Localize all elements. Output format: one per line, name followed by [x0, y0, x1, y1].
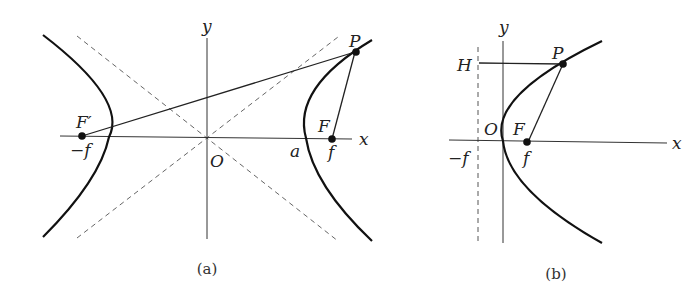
- foot-H-label: H: [456, 55, 473, 75]
- focus-right-coord-label: f: [326, 142, 337, 162]
- diagram-b-parabola: y x O F f −f H P (b): [448, 17, 682, 283]
- segment-F-P-b: [528, 64, 563, 142]
- figure-canvas: y x O F′ −f F f a P (a) y x O F f −f H P: [0, 0, 690, 306]
- vertex-label-a: a: [290, 141, 300, 161]
- origin-label-b: O: [484, 119, 498, 139]
- focus-coord-label-b: f: [521, 148, 532, 168]
- y-axis-label-a: y: [201, 16, 212, 36]
- segment-H-P: [479, 63, 563, 64]
- x-axis-label-b: x: [672, 133, 682, 153]
- x-axis-b: [449, 140, 667, 143]
- x-axis-label-a: x: [359, 129, 369, 149]
- directrix-coord-label: −f: [448, 148, 471, 168]
- focus-right-label: F: [317, 116, 331, 136]
- segment-Fprime-P: [82, 52, 355, 136]
- y-axis-label-b: y: [498, 17, 509, 37]
- diagram-a-hyperbola: y x O F′ −f F f a P (a): [43, 16, 372, 278]
- focus-left-point: [78, 132, 86, 140]
- focus-point-b: [523, 138, 531, 146]
- focus-label-b: F: [512, 119, 526, 139]
- point-P-label-b: P: [551, 43, 564, 63]
- focus-left-coord-label: −f: [70, 140, 93, 160]
- focus-left-label: F′: [75, 112, 92, 132]
- caption-b: (b): [545, 265, 566, 283]
- caption-a: (a): [197, 260, 218, 278]
- point-P-label-a: P: [348, 31, 361, 51]
- origin-label-a: O: [210, 151, 224, 171]
